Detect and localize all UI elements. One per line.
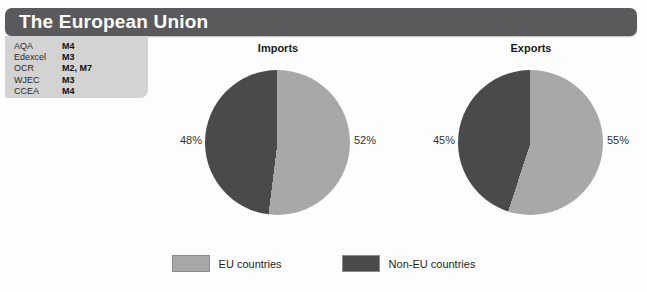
exam-board-modules: M4 [62, 86, 75, 97]
exam-board-row: OCR M2, M7 [14, 63, 144, 74]
exam-board-modules: M4 [62, 41, 75, 52]
page-title: The European Union [19, 11, 208, 33]
legend-label-non-eu: Non-EU countries [389, 258, 476, 270]
exam-board-name: Edexcel [14, 52, 62, 63]
exam-board-modules: M3 [62, 75, 75, 86]
exam-board-name: CCEA [14, 86, 62, 97]
chart-title-exports: Exports [431, 42, 631, 54]
pie-slice-label-non-eu-exports: 45% [415, 134, 455, 146]
legend-swatch-non-eu-icon [342, 255, 380, 272]
exam-board-modules: M2, M7 [62, 63, 92, 74]
exam-board-row: Edexcel M3 [14, 52, 144, 63]
exam-board-panel: AQA M4 Edexcel M3 OCR M2, M7 WJEC M3 CCE… [5, 36, 148, 98]
legend-item-eu: EU countries [172, 255, 282, 272]
exam-board-row: WJEC M3 [14, 75, 144, 86]
exam-board-row: CCEA M4 [14, 86, 144, 97]
exam-board-row: AQA M4 [14, 41, 144, 52]
exam-board-name: AQA [14, 41, 62, 52]
pie-slice-label-eu-exports: 55% [607, 134, 647, 146]
pie-graphic-imports [205, 70, 350, 215]
exam-board-name: WJEC [14, 75, 62, 86]
legend-swatch-eu-icon [172, 255, 210, 272]
exam-board-name: OCR [14, 63, 62, 74]
chart-legend: EU countries Non-EU countries [0, 255, 647, 272]
exam-board-modules: M3 [62, 52, 75, 63]
legend-item-non-eu: Non-EU countries [342, 255, 476, 272]
pie-graphic-exports [458, 70, 603, 215]
pie-slice-label-eu-imports: 52% [354, 134, 394, 146]
page-root: The European Union AQA M4 Edexcel M3 OCR… [0, 0, 647, 292]
chart-title-imports: Imports [178, 42, 378, 54]
page-title-bar: The European Union [5, 8, 637, 36]
pie-slice-label-non-eu-imports: 48% [162, 134, 202, 146]
exam-board-list: AQA M4 Edexcel M3 OCR M2, M7 WJEC M3 CCE… [14, 41, 144, 97]
legend-label-eu: EU countries [219, 258, 282, 270]
